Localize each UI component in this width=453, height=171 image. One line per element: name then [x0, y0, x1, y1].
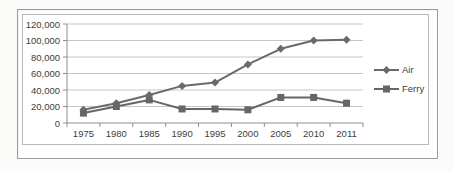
- y-tick-label: 40,000: [0, 85, 60, 96]
- chart-inner-frame: [22, 14, 429, 145]
- legend-label-air: Air: [402, 64, 414, 76]
- y-tick-label: 20,000: [0, 101, 60, 112]
- y-tick-label: 120,000: [0, 19, 60, 30]
- y-tick-label: 100,000: [0, 35, 60, 46]
- air-series-swatch-icon: [374, 65, 399, 75]
- y-tick-label: 60,000: [0, 68, 60, 79]
- y-tick-label: 0: [0, 118, 60, 129]
- legend-item-ferry: Ferry: [374, 83, 424, 95]
- y-tick-label: 80,000: [0, 52, 60, 63]
- legend-label-ferry: Ferry: [402, 83, 424, 95]
- legend-item-air: Air: [374, 64, 414, 76]
- ferry-series-swatch-icon: [374, 84, 399, 94]
- x-tick-label: 2011: [327, 128, 367, 139]
